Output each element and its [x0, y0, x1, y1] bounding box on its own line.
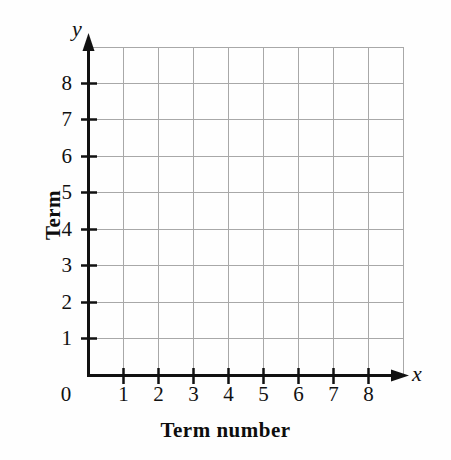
x-tick-label-1: 1	[113, 384, 135, 405]
coordinate-grid-figure: y x 1 2 3 4 5 6 7 8 0 1 2 3 4 5 6 7 8 Te…	[0, 0, 451, 460]
x-axis-variable-label: x	[412, 363, 422, 385]
y-tick-label-1: 1	[50, 328, 72, 349]
y-axis-title: Term	[41, 135, 66, 295]
y-tick-label-7: 7	[50, 109, 72, 130]
x-tick-label-8: 8	[358, 384, 380, 405]
x-tick-label-0: 0	[55, 384, 77, 405]
vertical-gridlines	[124, 47, 404, 374]
y-axis-variable-label: y	[72, 18, 82, 40]
x-tick-label-2: 2	[148, 384, 170, 405]
horizontal-gridlines	[88, 48, 404, 339]
x-axis-title: Term number	[0, 418, 451, 443]
x-tick-label-5: 5	[253, 384, 275, 405]
x-tick-label-7: 7	[323, 384, 345, 405]
x-tick-label-6: 6	[288, 384, 310, 405]
x-axis-line	[87, 370, 409, 382]
y-tick-label-8: 8	[50, 73, 72, 94]
y-tick-label-2: 2	[50, 292, 72, 313]
x-tick-label-4: 4	[218, 384, 240, 405]
x-tick-label-3: 3	[183, 384, 205, 405]
